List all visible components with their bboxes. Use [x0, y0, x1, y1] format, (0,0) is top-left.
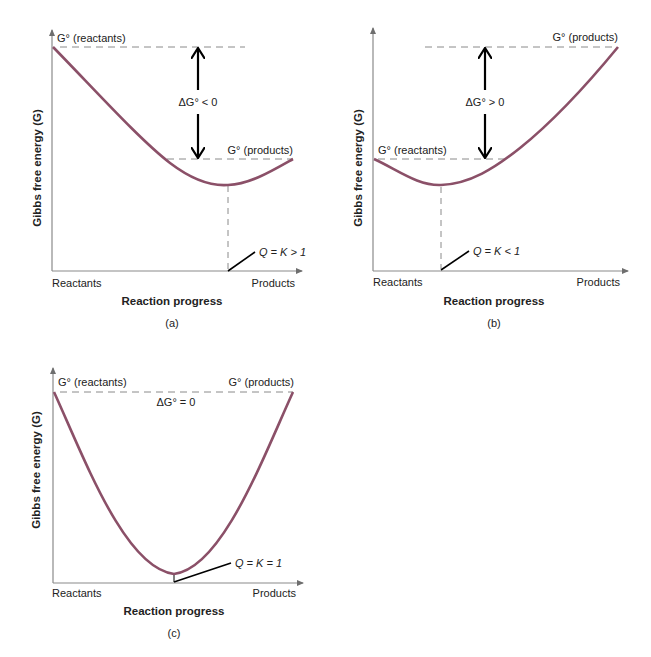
x-right-label: Products	[253, 587, 297, 599]
delta-g-label: ΔG° = 0	[157, 396, 196, 408]
y-axis-title: Gibbs free energy (G)	[31, 109, 43, 227]
eq-pointer-line	[441, 251, 469, 270]
x-axis-title: Reaction progress	[444, 295, 545, 307]
panel-c: G° (reactants) G° (products) ΔG° = 0 Q =…	[30, 368, 303, 639]
panel-caption: (b)	[487, 317, 500, 329]
y-axis-title: Gibbs free energy (G)	[352, 109, 364, 227]
x-right-label: Products	[577, 276, 621, 288]
g-reactants-label: G° (reactants)	[58, 376, 127, 388]
delta-g-label: ΔG° > 0	[466, 96, 505, 108]
x-left-label: Reactants	[373, 276, 423, 288]
gibbs-curve	[374, 47, 618, 185]
x-left-label: Reactants	[52, 587, 102, 599]
gibbs-curve	[53, 47, 293, 185]
g-reactants-label: G° (reactants)	[57, 32, 126, 44]
panel-caption: (a)	[165, 317, 178, 329]
delta-g-label: ΔG° < 0	[179, 96, 218, 108]
g-products-label: G° (products)	[552, 31, 618, 43]
x-left-label: Reactants	[52, 277, 102, 289]
panel-caption: (c)	[168, 627, 181, 639]
gibbs-curve	[54, 392, 293, 574]
g-reactants-label: G° (reactants)	[378, 144, 447, 156]
panel-b: G° (products) G° (reactants) ΔG° > 0 Q =…	[352, 28, 628, 329]
eq-label: Q = K < 1	[473, 245, 520, 257]
y-axis-title: Gibbs free energy (G)	[30, 411, 42, 529]
g-products-label: G° (products)	[227, 144, 293, 156]
panel-a: G° (reactants) G° (products) ΔG° < 0 Q =…	[31, 30, 306, 329]
x-right-label: Products	[252, 277, 296, 289]
eq-label: Q = K = 1	[235, 557, 282, 569]
figure: G° (reactants) G° (products) ΔG° < 0 Q =…	[0, 0, 651, 657]
g-products-label: G° (products)	[228, 376, 294, 388]
x-axis-title: Reaction progress	[122, 295, 223, 307]
eq-pointer-line	[228, 252, 255, 271]
x-axis-title: Reaction progress	[124, 605, 225, 617]
eq-label: Q = K > 1	[259, 246, 306, 258]
